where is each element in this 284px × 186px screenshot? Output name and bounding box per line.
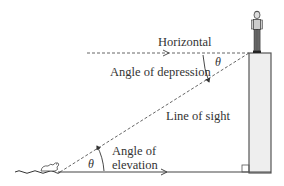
label-angle-of-elevation-2: elevation xyxy=(112,158,159,172)
theta-depression: θ xyxy=(215,55,221,69)
person-icon xyxy=(252,11,263,53)
label-angle-of-depression: Angle of depression xyxy=(110,65,211,79)
right-angle-marker xyxy=(242,165,249,172)
label-horizontal: Horizontal xyxy=(158,35,212,49)
elevation-arc xyxy=(97,146,104,171)
tower xyxy=(249,53,271,173)
label-angle-of-elevation-1: Angle of xyxy=(112,144,157,158)
theta-elevation: θ xyxy=(88,157,94,171)
duck-icon xyxy=(41,163,59,171)
diagram-canvas: Horizontal Angle of depression θ Line of… xyxy=(0,0,284,186)
label-line-of-sight: Line of sight xyxy=(166,109,230,123)
